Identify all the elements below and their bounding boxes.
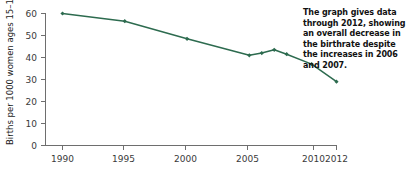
data-point-2006 [260,51,264,55]
data-point-1990 [60,11,64,15]
y-tick-label-10: 10 [26,119,38,129]
birthrate-line-series [63,14,337,82]
x-axis-tick-labels: 1990 1995 2000 2005 2010 2012 [51,154,348,164]
y-tick-label-50: 50 [26,31,38,41]
y-tick-label-20: 20 [26,97,38,107]
x-tick-label-1990: 1990 [51,154,74,164]
data-point-2007 [272,48,276,52]
x-tick-label-2005: 2005 [236,154,259,164]
birthrate-data-markers [60,11,338,83]
x-tick-label-1995: 1995 [112,154,135,164]
x-tick-label-2000: 2000 [174,154,197,164]
y-tick-label-30: 30 [26,75,38,85]
x-axis-ticks [63,146,337,151]
data-point-2005 [247,53,251,57]
x-tick-label-2010: 2010 [302,154,325,164]
chart-figure: Births per 1000 women ages 15–19 0 10 20… [0,0,412,182]
y-axis-label: Births per 1000 women ages 15–19 [5,0,15,145]
y-tick-label-40: 40 [26,53,38,63]
y-axis-ticks [41,14,46,146]
data-point-1995 [123,19,127,23]
x-tick-label-2012: 2012 [325,154,348,164]
y-tick-label-0: 0 [31,141,37,151]
y-tick-label-60: 60 [26,9,38,19]
y-axis-tick-labels: 0 10 20 30 40 50 60 [26,9,38,151]
chart-annotation-note: The graph gives data through 2012, showi… [303,8,407,71]
data-point-2000 [185,37,189,41]
data-point-2008 [285,52,289,56]
